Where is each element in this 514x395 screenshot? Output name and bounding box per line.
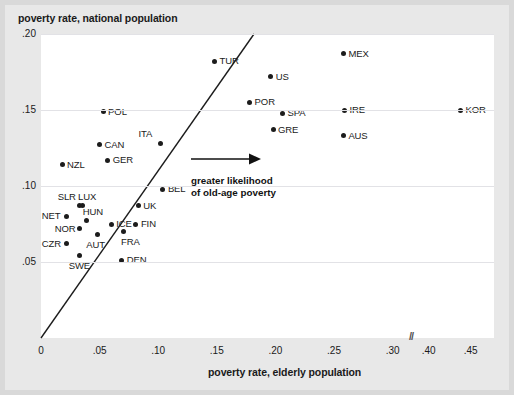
data-point-label: SPA (287, 107, 305, 118)
data-point-label: CZR (42, 238, 61, 249)
annotation-line-1: greater likelihood (191, 175, 276, 187)
figure-container: poverty rate, national population greate… (5, 5, 509, 390)
data-point (247, 100, 252, 105)
data-point-label: AUT (86, 239, 105, 250)
data-point-label: DEN (127, 254, 147, 265)
annotation-line-2: of old-age poverty (191, 187, 276, 199)
y-tick-label-3: .20 (10, 28, 36, 39)
data-point-label: GRE (278, 124, 298, 135)
data-point-label: AUS (348, 130, 367, 141)
y-tick-label-1: .10 (10, 180, 36, 191)
gridline-y-0 (41, 262, 494, 263)
data-point (60, 162, 65, 167)
data-point-label: TUR (219, 55, 238, 66)
gridline-y-3 (41, 34, 494, 35)
data-point (158, 141, 163, 146)
data-point-label: GER (113, 154, 133, 165)
x-tick-label-2: .10 (143, 345, 173, 356)
data-point (105, 158, 110, 163)
data-point (95, 232, 100, 237)
data-point-label: POR (255, 96, 275, 107)
data-point-label: ITA (139, 128, 153, 139)
y-axis-title: poverty rate, national population (18, 12, 177, 24)
data-point-label: BEL (168, 183, 186, 194)
data-point (121, 229, 126, 234)
x-tick-label-4: .20 (260, 345, 290, 356)
x-tick-label-7: .40 (414, 345, 444, 356)
x-tick-label-3: .15 (202, 345, 232, 356)
data-point (212, 59, 217, 64)
data-point-label: SLR (58, 191, 76, 202)
data-point (109, 222, 114, 227)
data-point-label: NET (42, 210, 61, 221)
data-point-label: US (276, 71, 289, 82)
data-point (160, 187, 165, 192)
data-point-label: FIN (141, 218, 156, 229)
data-point-label: HUN (83, 206, 103, 217)
x-tick-label-5: .25 (319, 345, 349, 356)
data-point-label: MEX (348, 48, 368, 59)
data-point-label: ICE (116, 218, 132, 229)
data-point (280, 111, 285, 116)
data-point-label: FRA (121, 236, 140, 247)
data-point-label: LUX (78, 191, 96, 202)
x-tick-label-6: .30 (378, 345, 408, 356)
data-point-label: NOR (55, 223, 76, 234)
data-point-label: POL (108, 106, 127, 117)
gridline-y-1 (41, 186, 494, 187)
data-point-label: UK (143, 200, 156, 211)
y-tick-label-2: .15 (10, 104, 36, 115)
axis-break-icon: // (409, 330, 413, 342)
gridline-y-2 (41, 110, 494, 111)
y-tick-label-0: .05 (10, 256, 36, 267)
data-point-label: NZL (67, 159, 85, 170)
data-point (271, 127, 276, 132)
x-tick-label-8: .45 (456, 345, 486, 356)
data-point-label: CAN (105, 139, 125, 150)
x-tick-label-1: .05 (85, 345, 115, 356)
x-tick-label-0: 0 (26, 345, 56, 356)
x-axis-title: poverty rate, elderly population (208, 366, 361, 378)
